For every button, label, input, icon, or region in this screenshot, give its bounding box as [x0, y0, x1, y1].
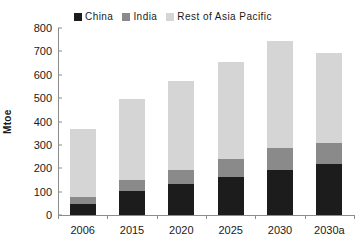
x-axis-tick-label-2030a: 2030a	[314, 224, 345, 236]
bar-segment-china-2025	[218, 177, 244, 215]
bar-2025[interactable]	[218, 62, 244, 215]
x-axis-tick-label-2015: 2015	[120, 224, 144, 236]
bar-2015[interactable]	[119, 99, 145, 215]
x-axis-tick-label-2006: 2006	[70, 224, 94, 236]
y-axis-tick-mark	[58, 121, 62, 122]
bar-segment-india-2020	[168, 170, 194, 184]
bar-segment-china-2006	[70, 204, 96, 215]
y-axis-tick-label: 600	[34, 69, 58, 80]
square-swatch-icon	[74, 13, 82, 21]
legend-label-india: India	[133, 12, 157, 22]
y-axis-tick-mark	[58, 74, 62, 75]
y-axis-tick-label: 100	[34, 186, 58, 197]
bar-2020[interactable]	[168, 81, 194, 215]
x-axis-tick-mark	[305, 215, 306, 219]
x-axis-tick-mark	[107, 215, 108, 219]
x-axis-tick-label-2030: 2030	[268, 224, 292, 236]
bar-segment-china-2030	[267, 170, 293, 215]
x-axis-tick-mark	[157, 215, 158, 219]
bar-2030a[interactable]	[316, 53, 342, 215]
bar-2030[interactable]	[267, 41, 293, 215]
bar-segment-india-2030a	[316, 143, 342, 165]
y-axis-tick-mark	[58, 51, 62, 52]
bar-segment-rest-of-asia-pacific-2020	[168, 81, 194, 170]
bar-segment-china-2030a	[316, 164, 342, 215]
y-axis-tick-mark	[58, 191, 62, 192]
bar-segment-india-2015	[119, 180, 145, 191]
bar-segment-china-2020	[168, 184, 194, 215]
y-axis-tick-label: 0	[46, 210, 58, 221]
bar-segment-rest-of-asia-pacific-2030a	[316, 53, 342, 143]
x-axis-tick-label-2025: 2025	[218, 224, 242, 236]
legend-label-rest-of-asia-pacific: Rest of Asia Pacific	[177, 12, 272, 22]
y-axis-tick-mark	[58, 168, 62, 169]
x-axis-tick-label-2020: 2020	[169, 224, 193, 236]
legend-item-china: China	[74, 12, 113, 22]
chart-legend: China India Rest of Asia Pacific	[74, 12, 272, 22]
stacked-bar-chart: China India Rest of Asia Pacific Mtoe 01…	[0, 0, 363, 243]
bar-2006[interactable]	[70, 129, 96, 215]
x-axis-tick-mark	[255, 215, 256, 219]
bar-segment-rest-of-asia-pacific-2015	[119, 99, 145, 180]
legend-item-rest-of-asia-pacific: Rest of Asia Pacific	[166, 12, 272, 22]
bar-segment-india-2025	[218, 159, 244, 177]
bar-segment-rest-of-asia-pacific-2006	[70, 129, 96, 197]
x-axis-tick-mark	[354, 215, 355, 219]
y-axis-tick-mark	[58, 28, 62, 29]
y-axis-title: Mtoe	[2, 96, 16, 148]
square-swatch-icon	[122, 13, 130, 21]
y-axis-tick-label: 500	[34, 93, 58, 104]
plot-area: 0100200300400500600700800200620152020202…	[58, 28, 354, 215]
y-axis-tick-label: 800	[34, 23, 58, 34]
x-axis-tick-mark	[206, 215, 207, 219]
legend-item-india: India	[122, 12, 157, 22]
y-axis-tick-label: 400	[34, 116, 58, 127]
x-axis-tick-mark	[58, 215, 59, 219]
y-axis-tick-label: 200	[34, 163, 58, 174]
bar-segment-india-2030	[267, 148, 293, 170]
y-axis-tick-mark	[58, 144, 62, 145]
square-swatch-icon	[166, 13, 174, 21]
y-axis-tick-label: 300	[34, 139, 58, 150]
bar-segment-china-2015	[119, 191, 145, 215]
bar-segment-india-2006	[70, 197, 96, 204]
y-axis-tick-mark	[58, 98, 62, 99]
bar-segment-rest-of-asia-pacific-2025	[218, 62, 244, 159]
legend-label-china: China	[85, 12, 113, 22]
y-axis-tick-label: 700	[34, 46, 58, 57]
bar-segment-rest-of-asia-pacific-2030	[267, 41, 293, 148]
